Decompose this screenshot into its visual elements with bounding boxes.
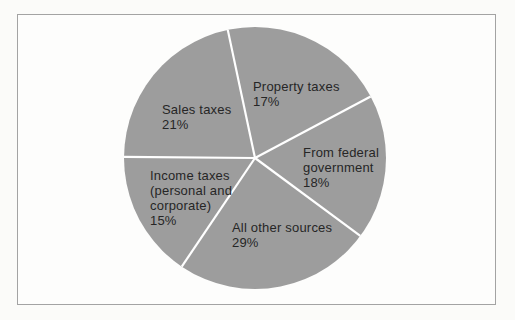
slice-label-income-taxes: Income taxes(personal andcorporate)15% [150, 168, 232, 228]
slice-label-line: (personal and [150, 183, 232, 198]
slice-label-line: corporate) [150, 198, 232, 213]
slice-label-property-taxes: Property taxes17% [253, 79, 340, 109]
slice-label-line: 29% [232, 235, 332, 250]
slice-label-line: From federal [303, 145, 379, 160]
slice-label-line: Income taxes [150, 168, 232, 183]
slice-label-line: government [303, 160, 379, 175]
slice-label-sales-taxes: Sales taxes21% [162, 102, 231, 132]
slice-label-line: 18% [303, 175, 379, 190]
slice-label-line: Sales taxes [162, 102, 231, 117]
slice-label-line: 15% [150, 213, 232, 228]
slice-label-line: Property taxes [253, 79, 340, 94]
slice-label-line: All other sources [232, 220, 332, 235]
slice-label-all-other-sources: All other sources29% [232, 220, 332, 250]
figure-canvas: Property taxes17%From federalgovernment1… [0, 0, 515, 320]
slice-label-from-federal-government: From federalgovernment18% [303, 145, 379, 190]
slice-label-line: 21% [162, 117, 231, 132]
pie-labels: Property taxes17%From federalgovernment1… [0, 0, 515, 320]
slice-label-line: 17% [253, 94, 340, 109]
